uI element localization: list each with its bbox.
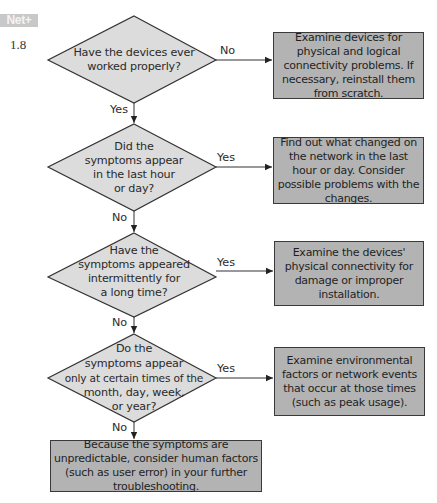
- label-d1-yes: Yes: [110, 103, 128, 116]
- label-d2-no: No: [112, 211, 127, 224]
- decision-4-line-1: Do the: [58, 342, 210, 357]
- decision-2-line-1: Did the: [74, 140, 194, 154]
- decision-2-line-4: or day?: [74, 182, 194, 196]
- decision-4-line-4: month, day, week,: [58, 386, 210, 401]
- decision-text-3: Have the symptoms appeared intermittentl…: [70, 244, 198, 300]
- decision-2-line-3: in the last hour: [74, 168, 194, 182]
- label-d4-no: No: [112, 421, 127, 434]
- decision-2-line-2: symptoms appear: [74, 154, 194, 168]
- label-d3-yes: Yes: [217, 256, 235, 269]
- decision-3-line-2: symptoms appeared: [70, 258, 198, 272]
- decision-text-4: Do the symptoms appear only at certain t…: [58, 342, 210, 415]
- decision-1-line-1: Have the devices ever: [64, 46, 204, 60]
- action-box-1: Examine devices for physical and logical…: [273, 32, 424, 99]
- decision-4-line-2: symptoms appear: [58, 357, 210, 372]
- decision-text-2: Did the symptoms appear in the last hour…: [74, 140, 194, 196]
- action-box-2: Find out what changed on the network in …: [273, 137, 424, 204]
- label-d1-no: No: [220, 44, 235, 57]
- action-box-3: Examine the devices' physical connectivi…: [274, 241, 424, 306]
- label-d2-yes: Yes: [217, 151, 235, 164]
- decision-1-line-2: worked properly?: [64, 60, 204, 74]
- decision-4-line-5: or year?: [58, 400, 210, 415]
- action-box-4: Examine environmental factors or network…: [274, 347, 425, 416]
- decision-text-1: Have the devices ever worked properly?: [64, 46, 204, 74]
- decision-3-line-3: intermittently for: [70, 272, 198, 286]
- label-d4-yes: Yes: [217, 362, 235, 375]
- decision-3-line-1: Have the: [70, 244, 198, 258]
- decision-3-line-4: a long time?: [70, 286, 198, 300]
- action-box-5: Because the symptoms are unpredictable, …: [50, 440, 262, 492]
- label-d3-no: No: [112, 316, 127, 329]
- decision-4-line-3: only at certain times of the: [58, 371, 210, 386]
